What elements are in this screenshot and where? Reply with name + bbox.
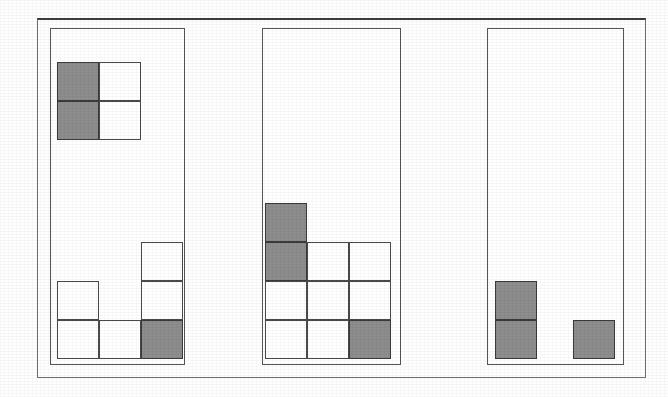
panel-1-bottom-block-col-3-cell-2 — [141, 281, 183, 320]
panel-2-main-block-col-3-cell-3 — [349, 242, 391, 281]
panel-3-main-block-col-1-cell-2 — [495, 281, 537, 320]
panel-2-main-block-col-3-cell-2 — [349, 281, 391, 320]
panel-1-top-block-col-2-cell-2 — [99, 62, 141, 101]
panel-1-top-block-col-1-cell-1 — [57, 101, 99, 140]
panel-2-main-block-col-2-cell-1 — [307, 320, 349, 359]
panel-2-main-block-col-1-cell-2 — [265, 281, 307, 320]
panel-1-bottom-block-col-3-cell-3 — [141, 242, 183, 281]
panel-2-main-block-col-2-cell-2 — [307, 281, 349, 320]
figure-root — [0, 0, 668, 397]
panel-1-bottom-block-col-3-cell-1 — [141, 320, 183, 359]
panel-2-main-block-col-1-cell-3 — [265, 242, 307, 281]
panel-1-bottom-block-col-1-cell-2 — [57, 281, 99, 320]
panel-1-top-block-col-1-cell-2 — [57, 62, 99, 101]
panel-1-bottom-block-col-1-cell-1 — [57, 320, 99, 359]
panel-2-main-block-col-2-cell-3 — [307, 242, 349, 281]
panel-2-main-block-col-1-cell-1 — [265, 320, 307, 359]
panel-1-bottom-block-col-2-cell-1 — [99, 320, 141, 359]
panel-2-main-block-col-3-cell-1 — [349, 320, 391, 359]
panel-3-main-block-col-3-cell-1 — [573, 320, 615, 359]
panel-3-main-block-col-1-cell-1 — [495, 320, 537, 359]
panel-1-top-block-col-2-cell-1 — [99, 101, 141, 140]
panel-2-main-block-col-1-cell-4 — [265, 203, 307, 242]
